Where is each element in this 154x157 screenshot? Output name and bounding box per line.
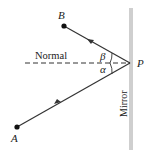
beta-arc — [110, 53, 112, 63]
label-p: P — [136, 57, 144, 69]
label-alpha: α — [100, 63, 106, 75]
reflected-arrow-icon — [87, 39, 94, 44]
alpha-arc — [110, 63, 112, 74]
label-normal: Normal — [35, 50, 67, 61]
reflection-diagram: B A P Normal β α Mirror — [0, 0, 154, 157]
point-b-dot — [61, 23, 66, 28]
label-b: B — [58, 9, 65, 21]
label-a: A — [10, 132, 18, 144]
mirror — [129, 8, 133, 150]
label-beta: β — [99, 50, 106, 62]
incident-ray — [17, 63, 130, 127]
point-a-dot — [14, 124, 19, 129]
reflected-ray — [64, 26, 130, 63]
label-mirror: Mirror — [118, 90, 129, 117]
